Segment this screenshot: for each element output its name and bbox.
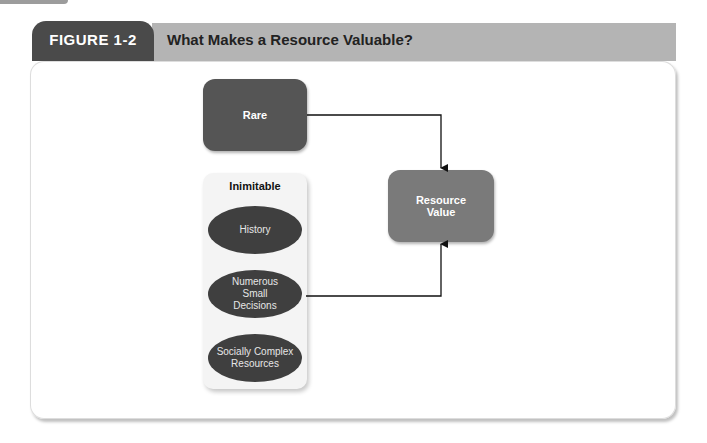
rare-to-value-arrow [307, 115, 441, 168]
decisions-to-value-arrow [306, 244, 441, 296]
connector-arrows [0, 0, 707, 443]
